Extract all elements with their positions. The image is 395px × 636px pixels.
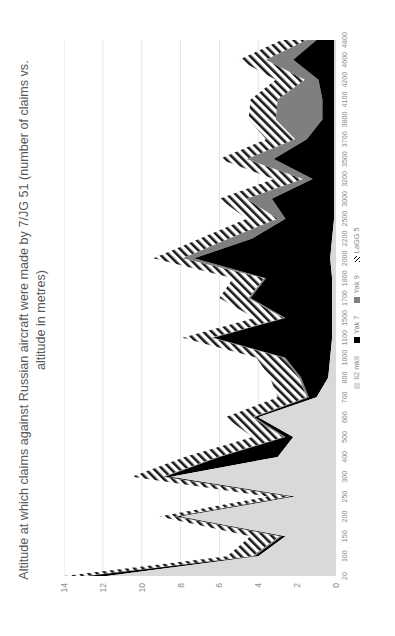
legend-item[interactable]: Yak 7 (352, 316, 361, 343)
x-axis-tick-label: 4600 (341, 52, 349, 68)
legend-item[interactable]: LaGG 5 (352, 227, 361, 262)
plot-area: 02468101214 2010015020025030040050060070… (64, 40, 336, 576)
x-axis-tick-label: 3800 (341, 112, 349, 128)
area-chart-svg (64, 40, 336, 576)
x-axis-tick-label: 500 (341, 431, 349, 443)
x-axis-tick-label: 2500 (341, 211, 349, 227)
y-axis-tick-label: 0 (331, 583, 341, 588)
x-axis-tick-label: 20 (341, 572, 349, 580)
legend-item[interactable]: Yak 9 (352, 275, 361, 302)
legend-label: Yak 9 (352, 275, 361, 293)
y-axis-tick-label: 14 (59, 583, 69, 593)
x-axis-tick-label: 3200 (341, 171, 349, 187)
y-axis-tick-label: 12 (98, 583, 108, 593)
series-areas (64, 40, 336, 576)
x-axis-tick-label: 800 (341, 372, 349, 384)
legend-swatch-icon (354, 297, 360, 303)
x-axis-tick-label: 100 (341, 550, 349, 562)
x-axis-tick-label: 4100 (341, 92, 349, 108)
x-axis-tick-label: 250 (341, 491, 349, 503)
x-axis-tick-label: 2200 (341, 231, 349, 247)
x-axis-tick-label: 1100 (341, 330, 349, 345)
legend-swatch-icon (354, 383, 360, 389)
legend-label: Yak 7 (352, 316, 361, 334)
x-axis-tick-label: 1500 (341, 310, 349, 326)
x-axis-tick-label: 300 (341, 471, 349, 483)
chart-title: Altitude at which claims against Russian… (16, 40, 50, 600)
y-axis-tick-label: 8 (176, 583, 186, 588)
x-axis-tick-label: 3000 (341, 191, 349, 207)
y-axis-tick-label: 6 (214, 583, 224, 588)
legend-label: Il2 mkII (352, 356, 361, 380)
x-axis-tick-label: 1800 (341, 270, 349, 286)
x-axis-tick-label: 4200 (341, 72, 349, 88)
legend-swatch-icon (354, 337, 360, 343)
legend-item[interactable]: Il2 mkII (352, 356, 361, 389)
legend-swatch-icon (354, 256, 360, 262)
chart-figure: Altitude at which claims against Russian… (0, 0, 395, 636)
y-axis-tick-label: 4 (253, 583, 263, 588)
x-axis-tick-label: 3700 (341, 131, 349, 147)
x-axis-tick-label: 1000 (341, 350, 349, 366)
x-axis-tick-label: 400 (341, 451, 349, 463)
y-axis-tick-label: 10 (137, 583, 147, 593)
legend-label: LaGG 5 (352, 227, 361, 253)
x-axis-tick-label: 700 (341, 391, 349, 403)
x-axis-tick-label: 600 (341, 411, 349, 423)
x-axis-tick-label: 150 (341, 530, 349, 542)
x-axis-tick-label: 3500 (341, 151, 349, 167)
chart-legend: Il2 mkIIYak 7Yak 9LaGG 5 (352, 40, 361, 576)
rotated-canvas: Altitude at which claims against Russian… (0, 0, 395, 636)
x-axis-tick-label: 200 (341, 511, 349, 523)
x-axis-tick-label: 1700 (341, 290, 349, 306)
x-axis-tick-label: 2000 (341, 250, 349, 266)
y-axis-tick-label: 2 (292, 583, 302, 588)
x-axis-tick-label: 4800 (341, 32, 349, 48)
